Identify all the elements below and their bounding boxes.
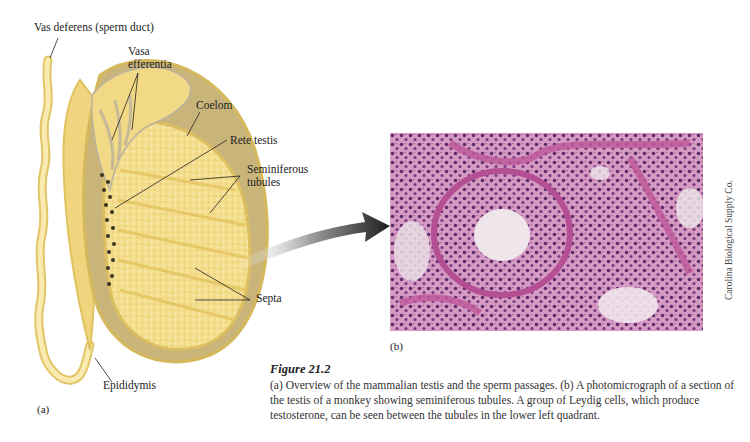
label-vas-deferens: Vas deferens (sperm duct) [34,21,154,34]
micrograph-image [390,133,703,331]
label-vasa-efferentia-line1: Vasa [128,45,150,58]
label-seminiferous-line1: Seminiferous [247,163,308,176]
figure-caption-text: (a) Overview of the mammalian testis and… [270,378,740,423]
panel-b-letter: (b) [390,340,403,352]
label-epididymis: Epididymis [103,379,156,392]
panel-a-letter: (a) [37,403,49,415]
photo-credit: Carolina Biological Supply Co. [724,180,734,300]
label-septa: Septa [256,292,282,305]
figure-number: Figure 21.2 [270,362,740,377]
label-coelom: Coelom [196,99,232,112]
label-rete-testis: Rete testis [230,134,278,147]
label-seminiferous-line2: tubules [247,176,280,189]
figure-caption: Figure 21.2 (a) Overview of the mammalia… [270,362,740,423]
label-vasa-efferentia-line2: efferentia [128,58,172,71]
